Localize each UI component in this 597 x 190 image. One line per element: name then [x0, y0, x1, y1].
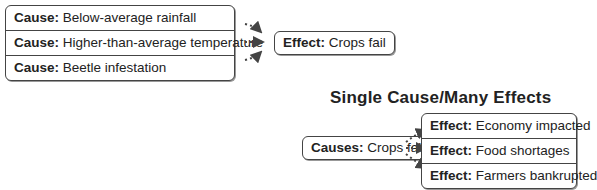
cause-label: Causes:: [311, 140, 364, 155]
effect-box: Effect: Crops fail: [274, 31, 395, 55]
cause-label: Cause:: [14, 60, 59, 75]
cause-text: Below-average rainfall: [59, 10, 196, 25]
effect-item: Effect: Farmers bankrupted: [422, 164, 576, 188]
effects-list: Effect: Economy impacted Effect: Food sh…: [421, 113, 577, 189]
effect-label: Effect:: [430, 168, 472, 183]
cause-label: Cause:: [14, 10, 59, 25]
effect-text: Farmers bankrupted: [472, 168, 597, 183]
cause-text: Beetle infestation: [59, 60, 166, 75]
effect-text: Crops fail: [325, 35, 386, 50]
effect-item: Effect: Food shortages: [422, 139, 576, 164]
section-title: Single Cause/Many Effects: [330, 88, 551, 108]
effect-label: Effect:: [430, 118, 472, 133]
converging-arrows-icon: [243, 18, 273, 68]
effect-item: Effect: Economy impacted: [422, 114, 576, 139]
cause-text: Higher-than-average temperature: [59, 35, 263, 50]
effect-text: Food shortages: [472, 143, 570, 158]
effect-text: Economy impacted: [472, 118, 591, 133]
cause-label: Cause:: [14, 35, 59, 50]
cause-item: Cause: Below-average rainfall: [6, 6, 234, 31]
cause-item: Cause: Beetle infestation: [6, 56, 234, 80]
effect-label: Effect:: [283, 35, 325, 50]
effect-label: Effect:: [430, 143, 472, 158]
cause-item: Cause: Higher-than-average temperature: [6, 31, 234, 56]
causes-list: Cause: Below-average rainfall Cause: Hig…: [5, 5, 235, 81]
